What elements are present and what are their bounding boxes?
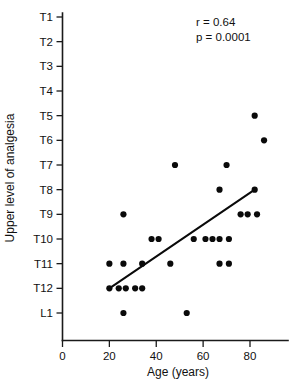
data-point [106, 261, 112, 267]
x-tick-label: 20 [103, 350, 116, 362]
y-tick-label: T11 [34, 258, 53, 270]
y-tick-label: T9 [40, 208, 53, 220]
y-tick-label: T12 [33, 282, 53, 294]
data-point [238, 211, 244, 217]
data-point [148, 236, 154, 242]
x-tick-label: 80 [244, 350, 257, 362]
data-point [167, 261, 173, 267]
data-point [216, 236, 222, 242]
data-point [155, 236, 161, 242]
data-point [209, 236, 215, 242]
data-point [245, 211, 251, 217]
data-point [216, 187, 222, 193]
data-point [106, 285, 112, 291]
data-point [226, 236, 232, 242]
data-point [226, 261, 232, 267]
data-point [139, 285, 145, 291]
y-tick-label: T7 [40, 159, 53, 171]
data-points-group [106, 113, 267, 317]
y-tick-label: T2 [40, 36, 53, 48]
scatter-plot-canvas: T1T2T3T4T5T6T7T8T9T10T11T12L1 020406080 … [0, 0, 291, 391]
y-tick-label: T5 [40, 110, 53, 122]
data-point [172, 162, 178, 168]
y-tick-label: T6 [40, 134, 53, 146]
data-point [254, 211, 260, 217]
data-point [120, 211, 126, 217]
pvalue-annotation: p = 0.0001 [196, 31, 251, 43]
data-point [191, 236, 197, 242]
y-tick-label: T10 [33, 233, 53, 245]
data-point [252, 187, 258, 193]
y-tick-label: T1 [40, 11, 53, 23]
y-tick-label: T4 [40, 85, 54, 97]
correlation-annotation: r = 0.64 [196, 16, 236, 28]
x-tick-label: 40 [150, 350, 163, 362]
y-tick-label: T8 [40, 184, 53, 196]
y-tick-label: L1 [40, 307, 53, 319]
regression-line [109, 190, 254, 289]
data-point [132, 285, 138, 291]
data-point [261, 137, 267, 143]
y-tick-label: T3 [40, 60, 53, 72]
x-tick-label: 60 [197, 350, 210, 362]
regression-line-group [109, 190, 254, 289]
x-axis-ticks: 020406080 [59, 341, 256, 363]
scatter-plot-figure: T1T2T3T4T5T6T7T8T9T10T11T12L1 020406080 … [0, 0, 291, 391]
x-axis-title: Age (years) [147, 365, 209, 379]
data-point [139, 261, 145, 267]
data-point [116, 285, 122, 291]
data-point [216, 261, 222, 267]
data-point [120, 310, 126, 316]
x-tick-label: 0 [59, 350, 65, 362]
data-point [252, 113, 258, 119]
y-axis-ticks: T1T2T3T4T5T6T7T8T9T10T11T12L1 [33, 11, 62, 319]
data-point [123, 285, 129, 291]
data-point [202, 236, 208, 242]
data-point [184, 310, 190, 316]
data-point [120, 261, 126, 267]
y-axis-title: Upper level of analgesia [3, 113, 17, 242]
data-point [223, 162, 229, 168]
